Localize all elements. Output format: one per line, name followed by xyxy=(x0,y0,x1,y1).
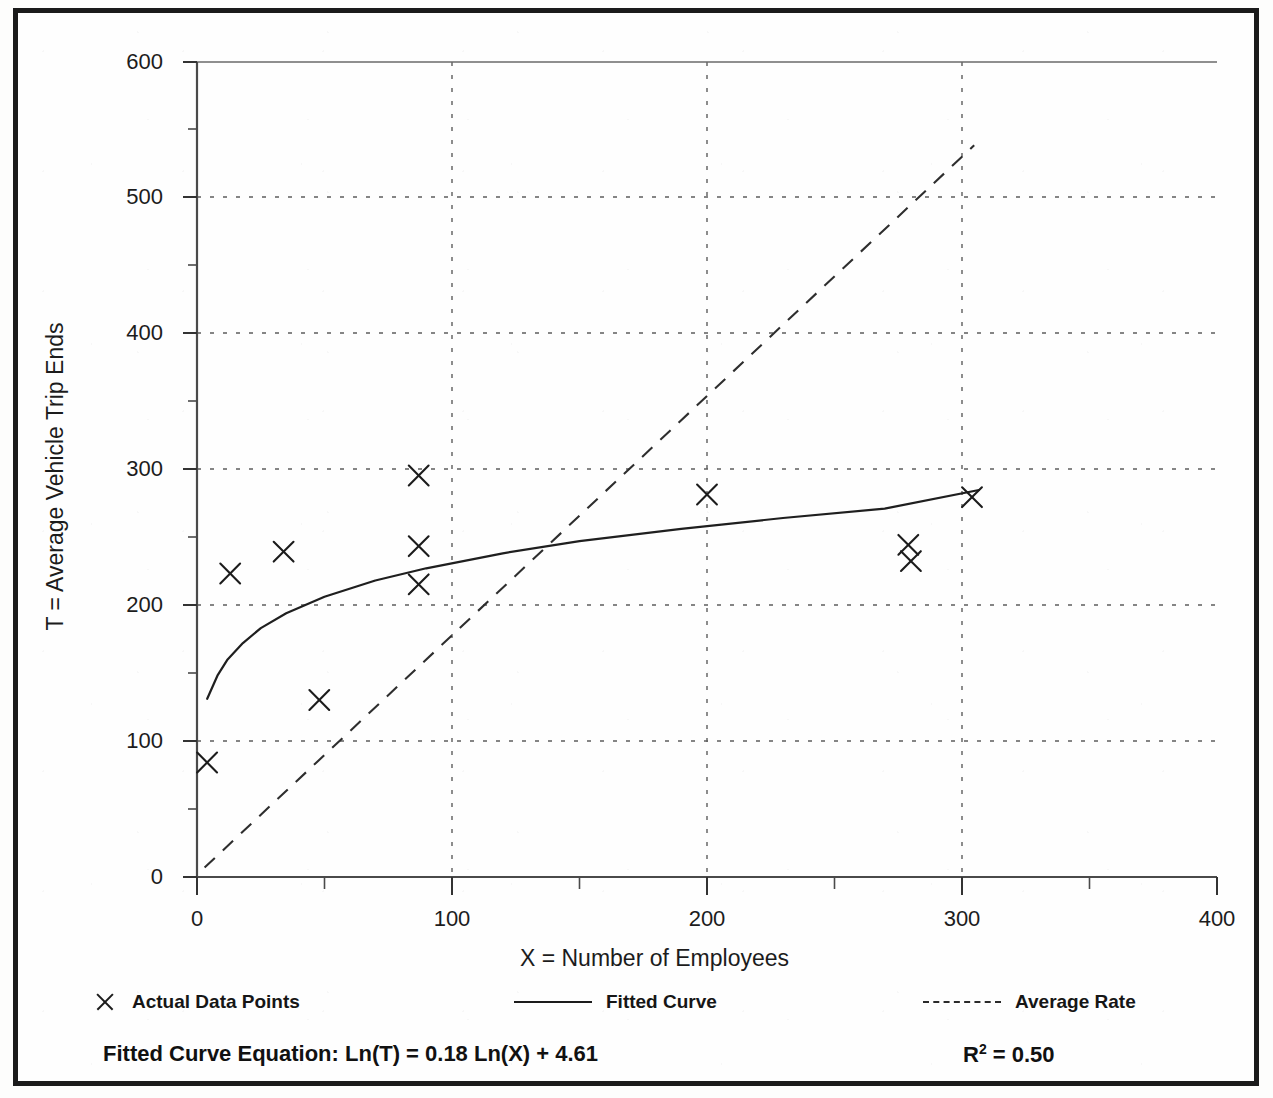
data-point xyxy=(409,536,429,556)
data-point xyxy=(409,574,429,594)
dashed-line-icon xyxy=(923,992,1001,1012)
equation-row: Fitted Curve Equation: Ln(T) = 0.18 Ln(X… xyxy=(78,1041,1238,1081)
y-tick-label-0: 0 xyxy=(73,864,163,890)
y-tick-label-600: 600 xyxy=(73,49,163,75)
solid-line-icon xyxy=(514,992,592,1012)
x-tick-label-0: 0 xyxy=(152,906,242,932)
legend-label-fitted-curve: Fitted Curve xyxy=(606,991,717,1013)
y-tick-label-300: 300 xyxy=(73,456,163,482)
x-tick-label-400: 400 xyxy=(1172,906,1262,932)
data-point xyxy=(197,753,217,773)
data-point xyxy=(901,551,921,571)
y-tick-label-500: 500 xyxy=(73,184,163,210)
r-squared-prefix: R xyxy=(963,1042,979,1067)
x-major-ticks xyxy=(197,877,1217,895)
chart-legend: Actual Data Points Fitted Curve Average … xyxy=(78,991,1238,1027)
data-point xyxy=(220,564,240,584)
data-point xyxy=(309,690,329,710)
x-tick-label-300: 300 xyxy=(917,906,1007,932)
y-major-ticks xyxy=(183,62,197,877)
y-tick-label-100: 100 xyxy=(73,728,163,754)
average-rate-line xyxy=(205,145,975,867)
x-tick-label-200: 200 xyxy=(662,906,752,932)
legend-label-actual-data-points: Actual Data Points xyxy=(132,991,300,1013)
legend-label-average-rate: Average Rate xyxy=(1015,991,1136,1013)
r-squared-number: = 0.50 xyxy=(987,1042,1055,1067)
fitted-curve-line xyxy=(207,490,979,699)
y-tick-label-400: 400 xyxy=(73,320,163,346)
data-point xyxy=(697,485,717,505)
x-tick-label-100: 100 xyxy=(407,906,497,932)
legend-item-fitted-curve: Fitted Curve xyxy=(514,991,717,1013)
chart-page: 600 500 400 300 200 100 0 0 100 200 300 … xyxy=(0,0,1273,1098)
data-point xyxy=(274,542,294,562)
x-marker-icon xyxy=(92,992,118,1012)
data-point-markers xyxy=(197,466,982,773)
x-axis-title: X = Number of Employees xyxy=(18,945,1273,972)
legend-item-actual-data-points: Actual Data Points xyxy=(92,991,300,1013)
figure-frame: 600 500 400 300 200 100 0 0 100 200 300 … xyxy=(13,8,1259,1086)
r-squared-exponent: 2 xyxy=(979,1041,987,1057)
y-tick-label-200: 200 xyxy=(73,592,163,618)
y-axis-title: T = Average Vehicle Trip Ends xyxy=(42,277,69,677)
r-squared-value: R2 = 0.50 xyxy=(963,1041,1055,1068)
legend-item-average-rate: Average Rate xyxy=(923,991,1136,1013)
fitted-curve-equation: Fitted Curve Equation: Ln(T) = 0.18 Ln(X… xyxy=(103,1041,598,1067)
